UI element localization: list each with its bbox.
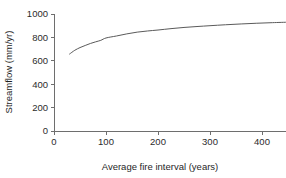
x-tick-label: 100 bbox=[98, 136, 114, 147]
x-tick-label: 200 bbox=[150, 136, 166, 147]
chart-figure: 02004006008001000 0100200300400 Streamfl… bbox=[0, 0, 286, 178]
y-tick-label: 1000 bbox=[27, 8, 48, 19]
y-tick-label: 200 bbox=[32, 102, 48, 113]
y-axis-title: Streamflow (mm/yr) bbox=[3, 31, 14, 114]
streamflow-curve bbox=[70, 22, 286, 54]
x-tick-label: 0 bbox=[51, 136, 56, 147]
y-tick-label: 400 bbox=[32, 79, 48, 90]
y-tick-label: 600 bbox=[32, 55, 48, 66]
x-tick-label: 400 bbox=[254, 136, 270, 147]
y-axis-tick-labels: 02004006008001000 bbox=[27, 8, 48, 136]
x-axis-title: Average fire interval (years) bbox=[102, 161, 219, 172]
chart-plot-area: 02004006008001000 0100200300400 Streamfl… bbox=[0, 0, 286, 178]
x-axis-tick-labels: 0100200300400 bbox=[51, 136, 270, 147]
y-tick-label: 0 bbox=[43, 125, 48, 136]
y-axis-ticks bbox=[51, 14, 55, 131]
y-tick-label: 800 bbox=[32, 32, 48, 43]
x-axis-ticks bbox=[54, 131, 262, 135]
x-tick-label: 300 bbox=[202, 136, 218, 147]
